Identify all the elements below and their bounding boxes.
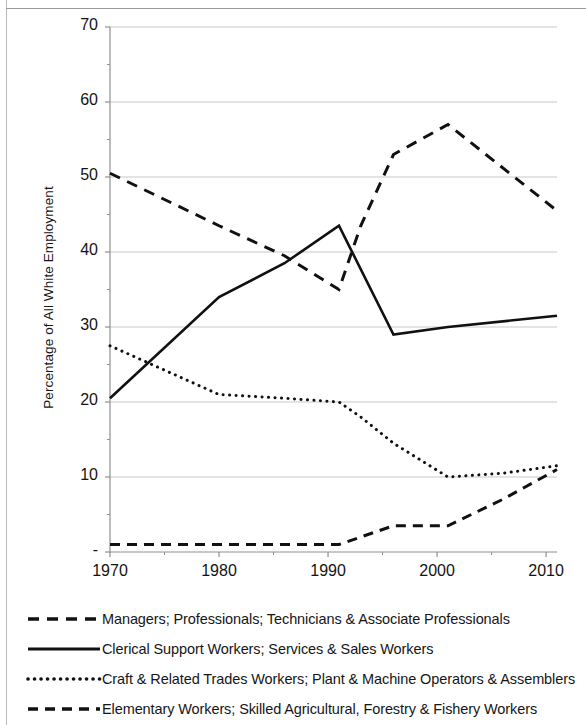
legend-label: Craft & Related Trades Workers; Plant & … <box>102 671 575 687</box>
data-series-group <box>110 125 557 545</box>
chart-legend: Managers; Professionals; Technicians & A… <box>0 604 586 725</box>
y-tick-label: 40 <box>52 241 98 259</box>
legend-item: Craft & Related Trades Workers; Plant & … <box>26 664 575 694</box>
chart-page: Percentage of All White Employment 70605… <box>0 0 586 725</box>
y-tick-label: 20 <box>52 391 98 409</box>
legend-item: Clerical Support Workers; Services & Sal… <box>26 634 433 664</box>
x-tick-label: 1970 <box>70 562 150 580</box>
legend-label: Elementary Workers; Skilled Agricultural… <box>102 701 537 717</box>
axis-lines <box>110 27 557 552</box>
y-tick-label: - <box>52 541 98 559</box>
legend-label: Clerical Support Workers; Services & Sal… <box>102 641 433 657</box>
legend-item: Elementary Workers; Skilled Agricultural… <box>26 694 537 724</box>
series-line-4 <box>110 470 557 545</box>
legend-line-swatch <box>26 642 102 656</box>
x-tick-label: 1980 <box>179 562 259 580</box>
legend-item: Managers; Professionals; Technicians & A… <box>26 604 510 634</box>
y-tick-label: 50 <box>52 166 98 184</box>
legend-label: Managers; Professionals; Technicians & A… <box>102 611 510 627</box>
x-tick-label: 2000 <box>397 562 477 580</box>
x-tick-label: 2010 <box>506 562 586 580</box>
y-tick-label: 10 <box>52 466 98 484</box>
line-chart: Percentage of All White Employment 70605… <box>0 0 586 600</box>
y-tick-label: 30 <box>52 316 98 334</box>
x-tick-label: 1990 <box>288 562 368 580</box>
y-tick-label: 70 <box>52 16 98 34</box>
gridlines <box>110 27 557 477</box>
y-tick-label: 60 <box>52 91 98 109</box>
y-axis-title: Percentage of All White Employment <box>41 168 56 428</box>
legend-line-swatch <box>26 672 102 686</box>
plot-canvas <box>0 0 586 600</box>
series-line-3 <box>110 346 557 477</box>
legend-line-swatch <box>26 612 102 626</box>
series-line-1 <box>110 125 557 290</box>
legend-line-swatch <box>26 702 102 716</box>
